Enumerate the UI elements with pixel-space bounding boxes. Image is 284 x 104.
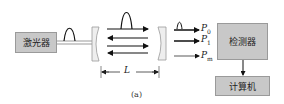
- detector-label: 检测器: [229, 35, 256, 48]
- left-mirror: [92, 27, 99, 61]
- cavity-length-dimension: [101, 66, 159, 78]
- detector-box: 检测器: [217, 23, 268, 60]
- figure-caption: (a): [131, 90, 142, 99]
- output-label-p1: P1: [201, 34, 211, 46]
- computer-label: 计算机: [229, 80, 256, 93]
- cavity-length-label: L: [124, 65, 130, 75]
- output-pulse-icon: [177, 22, 182, 29]
- computer-box: 计算机: [215, 76, 270, 96]
- output-beams: [174, 30, 199, 56]
- output-label-pm: Pm: [201, 50, 213, 62]
- intracavity-beams: [107, 29, 148, 53]
- right-mirror: [158, 27, 166, 60]
- cavity-pulse-icon: [121, 13, 132, 30]
- laser-label: 激光器: [23, 36, 50, 49]
- laser-box: 激光器: [15, 32, 57, 53]
- input-beam: [57, 41, 93, 44]
- input-pulse-icon: [64, 28, 75, 41]
